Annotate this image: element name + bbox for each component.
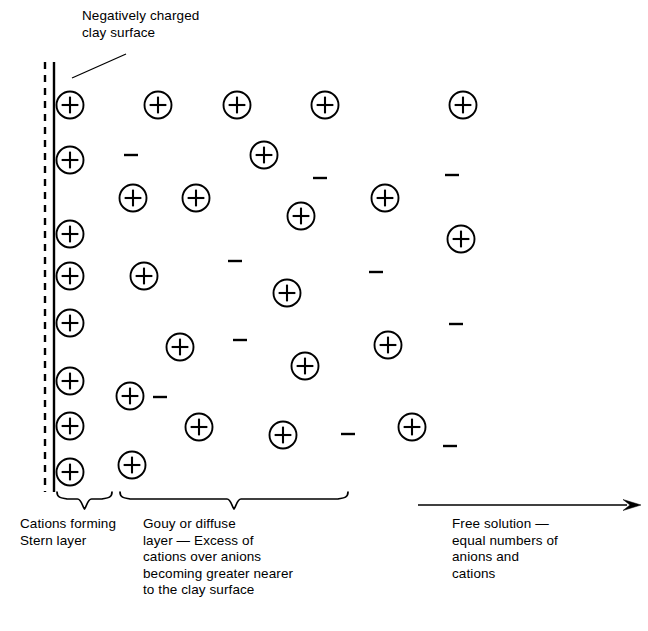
cation-symbol <box>399 414 426 441</box>
cation-symbol <box>224 92 251 119</box>
cation-symbol <box>183 185 210 212</box>
cation-symbol <box>57 92 84 119</box>
cation-symbol <box>312 92 339 119</box>
cation-symbol <box>251 142 278 169</box>
cation-symbol <box>145 92 172 119</box>
cation-symbol <box>375 332 402 359</box>
cation-symbol <box>450 92 477 119</box>
caption-stern-layer: Cations forming Stern layer <box>20 516 140 549</box>
cation-symbol <box>119 452 146 479</box>
caption-free-solution: Free solution — equal numbers of anions … <box>452 516 622 582</box>
cation-symbol <box>167 334 194 361</box>
cation-symbol <box>57 413 84 440</box>
cation-symbol <box>57 263 84 290</box>
arrow-group <box>418 500 641 511</box>
clay-surface-group <box>45 62 54 492</box>
cation-symbol <box>372 185 399 212</box>
cation-symbol <box>57 368 84 395</box>
braces-group <box>57 492 348 509</box>
cation-symbol <box>57 310 84 337</box>
cation-symbol <box>292 353 319 380</box>
cation-symbol <box>57 221 84 248</box>
anions-group <box>124 155 463 446</box>
cation-symbol <box>270 422 297 449</box>
gouy-brace <box>120 492 348 509</box>
cation-symbol <box>186 414 213 441</box>
cation-symbol <box>274 280 301 307</box>
cations-group <box>57 92 477 486</box>
cation-symbol <box>57 459 84 486</box>
cation-symbol <box>448 226 475 253</box>
cation-symbol <box>288 203 315 230</box>
leader-line <box>72 54 126 78</box>
cation-symbol <box>117 383 144 410</box>
leader-line-group <box>72 54 126 78</box>
surface-label: Negatively charged clay surface <box>82 8 199 41</box>
stern-brace <box>57 492 112 509</box>
caption-gouy-layer: Gouy or diffuse layer — Excess of cation… <box>143 516 323 599</box>
double-layer-diagram: Negatively charged clay surface Cations … <box>0 0 648 631</box>
cation-symbol <box>57 147 84 174</box>
cation-symbol <box>131 263 158 290</box>
cation-symbol <box>120 185 147 212</box>
